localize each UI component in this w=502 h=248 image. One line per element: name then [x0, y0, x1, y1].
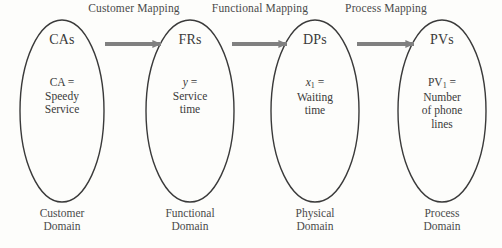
ellipse-functional-domain: [146, 20, 234, 202]
ellipse-customer-domain: [20, 20, 104, 202]
diagram-canvas: Customer Mapping Functional Mapping Proc…: [0, 0, 502, 248]
ellipse-process-domain: [398, 20, 486, 202]
ellipse-physical-domain: [271, 20, 359, 202]
diagram-graphics: [0, 0, 502, 248]
